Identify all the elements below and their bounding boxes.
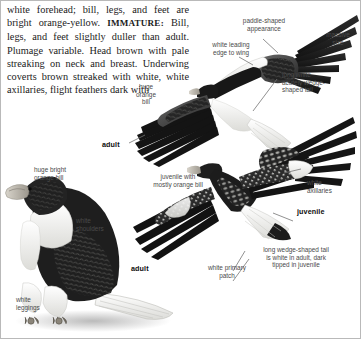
- label-white-shoulders: white shoulders: [76, 217, 126, 232]
- label-paddle-shaped-appearance: paddle-shaped appearance: [219, 17, 309, 32]
- label-massive-size: massive size: [317, 31, 359, 46]
- juvenile-flight-figure: [133, 151, 314, 260]
- label-adult-perched: adult: [131, 265, 165, 273]
- leader-juvenile-flight: [273, 213, 293, 221]
- label-juvenile-flight: juvenile: [297, 208, 343, 216]
- label-huge-orange-bill: huge orange bill: [127, 83, 165, 106]
- label-white-leggings: white leggings: [16, 296, 60, 311]
- label-huge-bright-orange-bill: huge bright orange bill: [34, 166, 96, 181]
- label-white-primary-patch: white primary patch: [193, 264, 261, 279]
- description-caps-word: IMMATURE:: [107, 18, 164, 28]
- label-long-white-wedge-tail: long white acutely wedge- shaped tail: [282, 71, 360, 94]
- leader-long-white-tail: [253, 79, 277, 111]
- label-white-axillaries: white axillaries: [307, 179, 359, 194]
- label-white-leading-edge: white leading edge to wing: [191, 41, 271, 56]
- leader-white-leading-edge: [239, 57, 253, 65]
- leader-white-axillaries: [284, 169, 301, 173]
- label-juvenile-with-orange-bill: juvenile with mostly orange bill: [132, 173, 224, 188]
- label-adult-flight: adult: [102, 141, 136, 149]
- field-guide-plate: white forehead; bill, legs, and feet are…: [0, 0, 361, 339]
